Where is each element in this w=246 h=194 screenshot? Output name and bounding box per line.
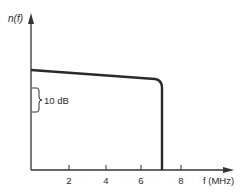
scale-brace: 10 dB [32,88,69,112]
x-axis-arrow-icon [223,167,234,173]
x-tick-4: 4 [103,165,108,186]
noise-spectrum-chart: n(f) 2 4 6 8 f (MHz) 10 dB [0,0,246,194]
y-axis-arrow-icon [28,13,34,24]
x-tick-2: 2 [66,165,71,186]
y-axis: n(f) [8,13,34,170]
x-tick-8: 8 [178,165,183,186]
x-tick-6: 6 [138,165,143,186]
noise-spectrum-curve [31,70,162,170]
x-axis: 2 4 6 8 f (MHz) [31,165,234,186]
scale-brace-label: 10 dB [44,95,69,106]
brace-icon [32,88,42,112]
x-axis-label: f (MHz) [203,175,234,186]
svg-text:6: 6 [138,175,143,186]
y-axis-label: n(f) [8,13,23,24]
svg-text:8: 8 [178,175,183,186]
svg-text:4: 4 [103,175,108,186]
svg-text:2: 2 [66,175,71,186]
